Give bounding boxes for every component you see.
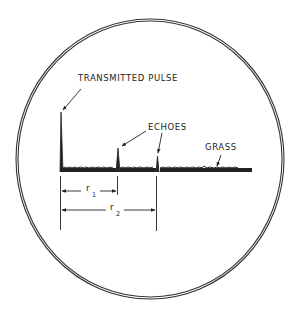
r2-dimension: r 2: [62, 202, 155, 218]
echo-2-spike: [156, 156, 159, 172]
r2-label: r: [110, 202, 114, 212]
radar-scope-diagram: TRANSMITTED PULSE ECHOES GRASS r 1 r 2: [0, 0, 298, 311]
scope-bezel: [16, 19, 284, 299]
r1-dimension: r 1: [62, 183, 116, 199]
r2-subscript: 2: [116, 210, 120, 218]
transmitted-pulse-spike: [60, 112, 63, 172]
transmitted-pulse-arrow: [63, 89, 81, 110]
range-ticks: [61, 176, 157, 231]
echoes-label: ECHOES: [148, 122, 187, 132]
echo-2-arrow: [158, 133, 162, 153]
echo-1-spike: [116, 148, 120, 172]
r1-label: r: [86, 183, 90, 193]
grass-arrow: [217, 155, 221, 166]
grass-label: GRASS: [205, 142, 237, 152]
r1-subscript: 1: [92, 191, 96, 199]
transmitted-pulse-label: TRANSMITTED PULSE: [77, 73, 178, 83]
echo-1-arrow: [122, 131, 146, 146]
